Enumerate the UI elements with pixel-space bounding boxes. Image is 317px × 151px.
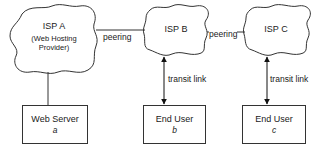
isp-a-subtitle-1: (Web Hosting (24, 34, 84, 43)
isp-a-title: ISP A (36, 21, 72, 31)
end-user-b-id: b (172, 125, 177, 135)
isp-c-title: ISP C (258, 24, 294, 34)
web-server-name: Web Server (31, 114, 78, 125)
end-user-b-name: End User (156, 114, 194, 125)
end-user-c-name: End User (255, 114, 293, 125)
peering-bc-label: peering (209, 29, 237, 39)
end-user-c-id: c (272, 125, 276, 135)
web-server-node: Web Server a (22, 105, 88, 144)
isp-b-title: ISP B (158, 24, 194, 34)
isp-a-subtitle-2: Provider) (24, 43, 84, 52)
peering-ab-label: peering (103, 32, 131, 42)
end-user-c-node: End User c (242, 105, 306, 144)
transit-b-label: transit link (168, 74, 206, 84)
end-user-b-node: End User b (143, 105, 206, 144)
transit-c-label: transit link (270, 74, 308, 84)
web-server-id: a (53, 125, 58, 135)
